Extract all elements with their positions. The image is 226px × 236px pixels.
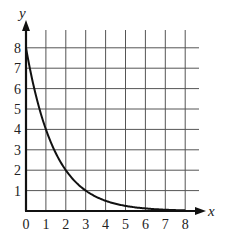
x-tick-label: 8 xyxy=(182,217,189,232)
y-tick-label: 2 xyxy=(14,163,21,178)
x-tick-label: 3 xyxy=(82,217,89,232)
y-tick-labels: 12345678 xyxy=(14,41,21,199)
y-tick-label: 6 xyxy=(14,82,21,97)
x-tick-label: 0 xyxy=(23,217,30,232)
y-axis-arrow-icon xyxy=(22,20,30,31)
x-tick-label: 5 xyxy=(122,217,129,232)
y-tick-label: 1 xyxy=(14,184,21,199)
y-tick-label: 3 xyxy=(14,143,21,158)
x-tick-label: 1 xyxy=(42,217,49,232)
y-tick-label: 4 xyxy=(14,122,21,137)
x-axis-label: x xyxy=(207,203,215,219)
y-tick-label: 7 xyxy=(14,61,21,76)
x-tick-labels: 012345678 xyxy=(23,217,189,232)
x-tick-label: 6 xyxy=(142,217,149,232)
x-axis-arrow-icon xyxy=(195,207,206,215)
y-tick-label: 5 xyxy=(14,102,21,117)
x-tick-label: 7 xyxy=(162,217,169,232)
exponential-decay-chart: 012345678 12345678 x y xyxy=(0,0,226,236)
x-tick-label: 2 xyxy=(62,217,69,232)
y-tick-label: 8 xyxy=(14,41,21,56)
grid-lines xyxy=(26,30,199,211)
x-tick-label: 4 xyxy=(102,217,109,232)
axes xyxy=(22,20,206,215)
y-axis-label: y xyxy=(17,5,26,21)
